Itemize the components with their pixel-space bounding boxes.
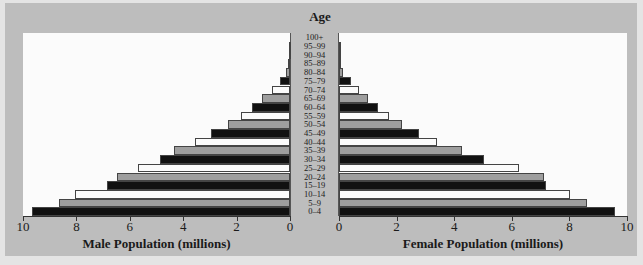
female-axis-title: Female Population (millions): [339, 236, 627, 252]
male-bar: [75, 190, 290, 199]
age-label: 40–44: [290, 138, 339, 147]
female-bar: [339, 181, 546, 190]
female-bar: [339, 190, 570, 199]
female-bar: [339, 42, 341, 51]
male-bar: [160, 155, 290, 164]
male-bar: [107, 181, 290, 190]
female-bar: [339, 103, 378, 112]
age-label: 95–99: [290, 42, 339, 51]
age-label: 100+: [290, 33, 339, 42]
female-bar: [339, 173, 544, 182]
female-bar: [339, 86, 359, 95]
female-bar: [339, 129, 419, 138]
female-bar: [339, 138, 437, 147]
age-label: 70–74: [290, 86, 339, 95]
female-bar: [339, 155, 484, 164]
age-label: 55–59: [290, 112, 339, 121]
male-bar: [117, 173, 290, 182]
age-label: 80–84: [290, 68, 339, 77]
male-bar: [211, 129, 290, 138]
female-tick-label: 2: [387, 219, 407, 235]
age-label: 0–4: [290, 207, 339, 216]
male-x-axis: [23, 216, 291, 217]
age-label: 90–94: [290, 51, 339, 60]
age-label: 5–9: [290, 199, 339, 208]
female-bar: [339, 68, 343, 77]
male-bar: [138, 164, 290, 173]
female-x-axis: [339, 216, 628, 217]
male-tick-label: 10: [13, 219, 33, 235]
female-bar: [339, 164, 519, 173]
male-bar: [280, 77, 290, 86]
age-label: 35–39: [290, 146, 339, 155]
male-tick-label: 0: [280, 219, 300, 235]
female-bar: [339, 94, 368, 103]
female-bar: [339, 51, 341, 60]
age-label: 60–64: [290, 103, 339, 112]
male-bar: [272, 86, 290, 95]
male-bar: [262, 94, 290, 103]
male-bar: [59, 199, 290, 208]
male-bar: [228, 120, 290, 129]
male-bar: [195, 138, 290, 147]
female-bar: [339, 146, 462, 155]
age-label: 20–24: [290, 173, 339, 182]
male-tick-label: 4: [173, 219, 193, 235]
age-label: 75–79: [290, 77, 339, 86]
male-bar: [241, 112, 290, 121]
male-bar: [252, 103, 290, 112]
age-label: 65–69: [290, 94, 339, 103]
age-label: 50–54: [290, 120, 339, 129]
male-tick-label: 8: [66, 219, 86, 235]
female-bar: [339, 59, 341, 68]
male-tick-label: 2: [227, 219, 247, 235]
male-axis-title: Male Population (millions): [23, 236, 290, 252]
female-bar: [339, 207, 615, 216]
age-axis-title: Age: [270, 9, 370, 25]
age-label: 25–29: [290, 164, 339, 173]
female-bar: [339, 199, 587, 208]
female-tick-label: 8: [559, 219, 579, 235]
age-label: 15–19: [290, 181, 339, 190]
female-tick-label: 6: [502, 219, 522, 235]
age-label: 85–89: [290, 59, 339, 68]
age-label: 30–34: [290, 155, 339, 164]
female-tick-label: 4: [444, 219, 464, 235]
male-tick-label: 6: [120, 219, 140, 235]
female-tick-label: 0: [329, 219, 349, 235]
female-bar: [339, 120, 402, 129]
male-bar: [174, 146, 290, 155]
female-tick-label: 10: [617, 219, 637, 235]
male-bar: [32, 207, 290, 216]
female-bar: [339, 77, 351, 86]
female-bar: [339, 112, 389, 121]
age-label: 10–14: [290, 190, 339, 199]
age-label: 45–49: [290, 129, 339, 138]
